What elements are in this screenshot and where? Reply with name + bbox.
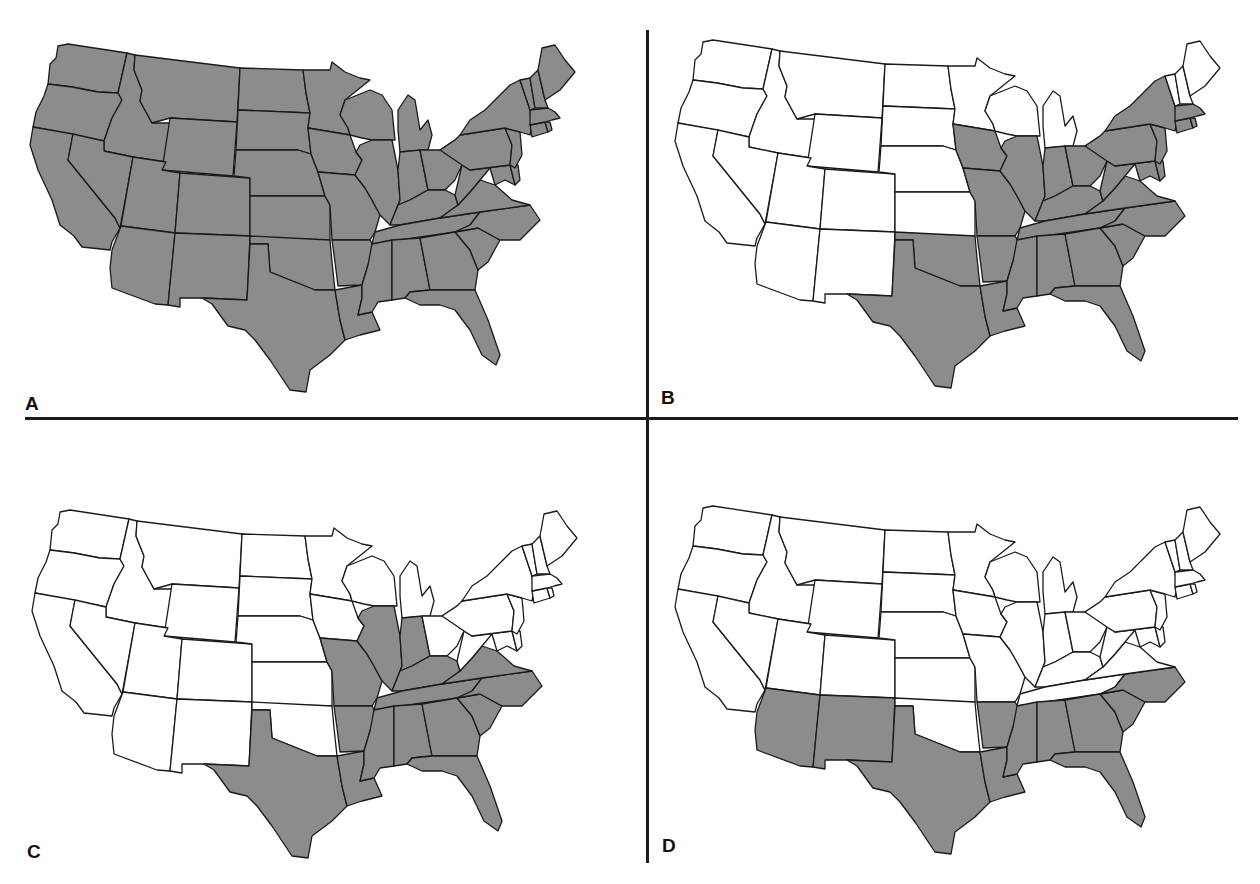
state-ma xyxy=(1175,104,1205,121)
state-mt xyxy=(134,55,240,123)
state-co xyxy=(175,173,250,236)
state-me xyxy=(540,511,577,566)
state-fl xyxy=(407,756,502,831)
state-ma xyxy=(1175,570,1205,587)
state-mt xyxy=(779,517,885,585)
state-az xyxy=(112,692,177,771)
state-co xyxy=(177,639,252,702)
map-panel-b xyxy=(675,40,1220,388)
panel-label-d: D xyxy=(662,836,676,855)
state-fl xyxy=(1050,286,1145,361)
state-nd xyxy=(240,534,312,579)
state-mi xyxy=(400,561,434,618)
state-az xyxy=(755,688,820,767)
state-ny xyxy=(460,80,532,135)
state-nm xyxy=(170,699,252,773)
map-panel-a xyxy=(30,44,575,392)
state-ks xyxy=(250,196,330,240)
state-co xyxy=(820,169,895,232)
state-me xyxy=(1183,507,1220,562)
state-mi xyxy=(1043,91,1077,148)
state-wy xyxy=(162,118,237,176)
map-panel-c xyxy=(32,510,577,858)
state-wy xyxy=(807,580,882,638)
state-sd xyxy=(238,576,313,620)
state-nm xyxy=(813,229,895,303)
state-ks xyxy=(895,192,975,236)
state-ny xyxy=(1105,542,1177,597)
state-ks xyxy=(895,658,975,702)
state-sd xyxy=(236,110,311,154)
state-sd xyxy=(881,106,956,150)
panel-label-b: B xyxy=(661,388,675,407)
state-sd xyxy=(881,572,956,616)
state-az xyxy=(755,222,820,301)
state-ks xyxy=(252,662,332,706)
state-wy xyxy=(807,114,882,172)
state-nd xyxy=(883,530,955,575)
state-nm xyxy=(813,695,895,769)
state-fl xyxy=(405,290,500,365)
state-ny xyxy=(1105,76,1177,131)
state-az xyxy=(110,226,175,305)
state-mt xyxy=(136,521,242,589)
panel-label-c: C xyxy=(27,842,41,861)
state-fl xyxy=(1050,752,1145,827)
horizontal-divider xyxy=(25,417,1238,420)
state-mi xyxy=(398,95,432,152)
state-nd xyxy=(238,68,310,113)
state-wy xyxy=(164,584,239,642)
state-me xyxy=(1183,41,1220,96)
us-maps-canvas xyxy=(0,0,1260,884)
state-mt xyxy=(779,51,885,119)
figure-four-us-maps: A B C D xyxy=(0,0,1260,884)
state-mi xyxy=(1043,557,1077,614)
state-ma xyxy=(532,574,562,591)
state-ma xyxy=(530,108,560,125)
state-co xyxy=(820,635,895,698)
state-me xyxy=(538,45,575,100)
vertical-divider xyxy=(646,30,649,863)
state-ny xyxy=(462,546,534,601)
state-nm xyxy=(168,233,250,307)
state-nd xyxy=(883,64,955,109)
panel-label-a: A xyxy=(25,394,39,413)
map-panel-d xyxy=(675,506,1220,854)
